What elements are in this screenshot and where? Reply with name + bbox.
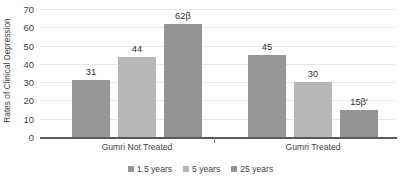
legend-item[interactable]: 1.5 years (128, 164, 172, 174)
gridline (40, 46, 397, 47)
legend-swatch-icon (231, 166, 237, 172)
legend-label: 5 years (192, 164, 220, 174)
bar (118, 57, 156, 137)
legend-swatch-icon (183, 166, 189, 172)
x-axis-category-label: Gumri Not Treated (102, 142, 173, 152)
x-axis-category-label: Gumri Treated (286, 142, 341, 152)
y-axis-tick-labels: 010203040506070 (0, 9, 38, 137)
chart-legend: 1.5 years5 years25 years (0, 164, 401, 174)
legend-item[interactable]: 5 years (183, 164, 220, 174)
bar-value-label: 44 (132, 43, 142, 54)
bar-value-label: 62β (175, 10, 191, 21)
plot-area: 314462β453015β' (40, 9, 397, 137)
y-axis-tick-label: 30 (24, 77, 34, 88)
y-axis-tick-label: 70 (24, 4, 34, 15)
legend-item[interactable]: 25 years (231, 164, 273, 174)
y-axis-tick-label: 10 (24, 113, 34, 124)
bar-value-label: 45 (262, 41, 272, 52)
x-axis-line (40, 137, 397, 139)
y-axis-tick-label: 40 (24, 58, 34, 69)
bar-value-label: 30 (308, 68, 318, 79)
bar-value-label: 15β' (350, 96, 368, 107)
bar-value-label: 31 (86, 66, 96, 77)
bar (164, 24, 202, 137)
y-axis-tick-label: 50 (24, 40, 34, 51)
bar (248, 55, 286, 137)
gridline (40, 64, 397, 65)
legend-swatch-icon (128, 166, 134, 172)
legend-label: 25 years (240, 164, 273, 174)
gridline (40, 9, 397, 10)
x-axis-group-tick (214, 138, 215, 143)
bar-chart: Rates of Clinical Depression 01020304050… (0, 0, 401, 186)
bar (294, 82, 332, 137)
y-axis-tick-label: 0 (29, 132, 34, 143)
bar (72, 80, 110, 137)
legend-label: 1.5 years (137, 164, 172, 174)
y-axis-tick-label: 60 (24, 22, 34, 33)
y-axis-tick-label: 20 (24, 95, 34, 106)
bar (340, 110, 378, 137)
gridline (40, 27, 397, 28)
